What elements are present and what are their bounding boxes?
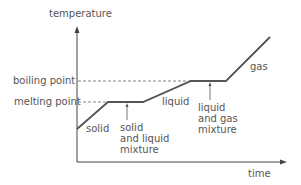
liquid-gas-line2: and gas	[198, 113, 238, 124]
liquid-gas-line1: liquid	[198, 102, 238, 113]
x-axis-arrowhead-icon	[280, 160, 287, 165]
solid-liquid-line1: solid	[120, 122, 169, 133]
solid-liquid-label: solid and liquid mixture	[120, 122, 169, 155]
gas-label: gas	[250, 61, 268, 72]
liquid-gas-line3: mixture	[198, 124, 238, 135]
liquid-label: liquid	[162, 96, 189, 107]
x-axis-label: time	[248, 168, 271, 179]
boiling-point-label: boiling point	[13, 75, 75, 86]
solid-label: solid	[86, 123, 109, 134]
solid-liquid-line2: and liquid	[120, 133, 169, 144]
y-axis-arrowhead-icon	[75, 26, 80, 33]
melting-point-label: melting point	[14, 96, 81, 107]
solid-liquid-arrowhead-icon	[126, 103, 129, 107]
heating-curve-diagram	[0, 0, 301, 185]
solid-liquid-line3: mixture	[120, 144, 169, 155]
liquid-gas-arrowhead-icon	[209, 82, 212, 86]
liquid-gas-label: liquid and gas mixture	[198, 102, 238, 135]
heating-curve	[77, 37, 270, 129]
y-axis-label: temperature	[49, 8, 112, 19]
